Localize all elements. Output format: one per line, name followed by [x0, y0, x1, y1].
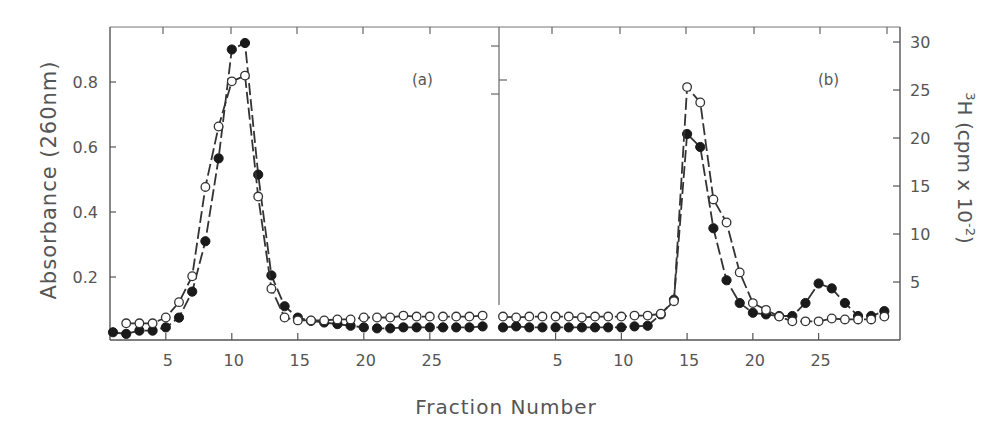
open-circle-marker	[465, 312, 474, 321]
open-circle-marker	[617, 312, 626, 321]
filled-circle-marker	[643, 321, 652, 330]
y-tick-label-right: 20	[910, 129, 930, 148]
y-tick-label-right: 30	[910, 33, 930, 52]
open-circle-marker	[346, 315, 355, 324]
filled-circle-marker	[214, 154, 223, 163]
open-circle-marker	[426, 312, 435, 321]
open-circle-marker	[525, 312, 534, 321]
x-tick-label: 20	[745, 351, 765, 370]
open-circle-marker	[814, 317, 823, 326]
filled-circle-marker	[709, 224, 718, 233]
y-axis-title-right: 3H (cpm x 10-2)	[953, 92, 978, 243]
filled-circle-marker	[577, 323, 586, 332]
y-tick-label-right: 25	[910, 81, 930, 100]
filled-circle-marker	[630, 322, 639, 331]
open-circle-marker	[148, 319, 157, 328]
open-circle-marker	[749, 299, 758, 308]
x-tick-label: 15	[679, 351, 699, 370]
open-circle-marker	[201, 183, 210, 192]
y-tick-label-left: 0.8	[73, 73, 98, 92]
open-circle-marker	[775, 312, 784, 321]
y-tick-label-right: 15	[910, 177, 930, 196]
filled-circle-marker	[551, 323, 560, 332]
open-circle-marker	[551, 312, 560, 321]
x-axis-title: Fraction Number	[415, 395, 597, 419]
panel-a-label: (a)	[412, 71, 433, 89]
absorbance-series	[498, 129, 889, 332]
open-circle-marker	[267, 284, 276, 293]
filled-circle-marker	[412, 323, 421, 332]
open-circle-marker	[280, 313, 289, 322]
open-circle-marker	[880, 312, 889, 321]
open-circle-marker	[788, 317, 797, 326]
filled-circle-marker	[478, 322, 487, 331]
filled-circle-marker	[399, 323, 408, 332]
y-tick-label-left: 0.6	[73, 138, 98, 157]
open-circle-marker	[591, 312, 600, 321]
x-tick-label: 25	[810, 351, 830, 370]
open-circle-marker	[307, 316, 316, 325]
open-circle-marker	[333, 315, 342, 324]
filled-circle-marker	[465, 323, 474, 332]
open-circle-marker	[214, 122, 223, 131]
open-circle-marker	[254, 192, 263, 201]
open-circle-marker	[175, 298, 184, 307]
filled-circle-marker	[604, 323, 613, 332]
open-circle-marker	[854, 315, 863, 324]
open-circle-marker	[412, 312, 421, 321]
filled-circle-marker	[201, 237, 210, 246]
y-tick-label-left: 0.4	[73, 203, 98, 222]
open-circle-marker	[439, 312, 448, 321]
filled-circle-marker	[240, 38, 249, 47]
open-circle-marker	[478, 311, 487, 320]
open-circle-marker	[399, 311, 408, 320]
open-circle-marker	[360, 313, 369, 322]
open-circle-marker	[827, 314, 836, 323]
filled-circle-marker	[452, 323, 461, 332]
filled-circle-marker	[386, 324, 395, 333]
filled-circle-marker	[498, 323, 507, 332]
filled-circle-marker	[108, 328, 117, 337]
open-circle-marker	[228, 77, 237, 86]
fractionation-chart: 0.20.40.60.85101520253051015202551015202…	[0, 0, 1008, 427]
open-circle-marker	[630, 311, 639, 320]
filled-circle-marker	[525, 323, 534, 332]
open-circle-marker	[657, 309, 666, 318]
filled-circle-marker	[696, 142, 705, 151]
filled-circle-marker	[512, 322, 521, 331]
y-axis-title-right-main: H (cpm x 10	[953, 101, 977, 223]
filled-circle-marker	[617, 323, 626, 332]
open-circle-marker	[867, 315, 876, 324]
filled-circle-marker	[801, 298, 810, 307]
open-circle-marker	[241, 71, 250, 80]
x-tick-label: 5	[553, 351, 563, 370]
filled-circle-marker	[840, 298, 849, 307]
series-line	[126, 76, 482, 324]
filled-circle-marker	[438, 323, 447, 332]
open-circle-marker	[578, 313, 587, 322]
y-axis-title-right-sup: 3	[963, 92, 978, 100]
x-tick-label: 10	[613, 351, 633, 370]
open-circle-marker	[452, 312, 461, 321]
open-circle-marker	[801, 317, 810, 326]
open-circle-marker	[696, 98, 705, 107]
axis-labels: (a) (b) Fraction Number Absorbance (260n…	[37, 60, 978, 419]
filled-circle-marker	[359, 323, 368, 332]
open-circle-marker	[188, 272, 197, 281]
open-circle-marker	[320, 316, 329, 325]
open-circle-marker	[373, 313, 382, 322]
open-circle-marker	[499, 312, 508, 321]
open-circle-marker	[643, 311, 652, 320]
filled-circle-marker	[161, 323, 170, 332]
open-circle-marker	[122, 319, 131, 328]
open-circle-marker	[512, 313, 521, 322]
open-circle-marker	[722, 218, 731, 227]
open-circle-marker	[386, 313, 395, 322]
x-tick-label: 20	[356, 351, 376, 370]
filled-circle-marker	[425, 323, 434, 332]
x-tick-label: 25	[422, 351, 442, 370]
tritium-series	[122, 71, 487, 327]
open-circle-marker	[762, 306, 771, 315]
series-line	[503, 134, 884, 327]
open-circle-marker	[162, 313, 171, 322]
